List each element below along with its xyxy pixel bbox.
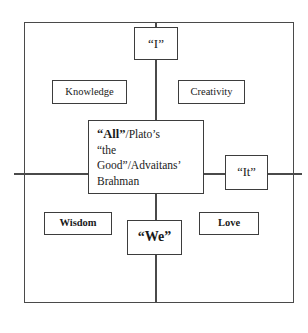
node-all-center: “All”/Plato’s “the Good”/Advaitans’ Brah… xyxy=(88,120,204,194)
node-creativity: Creativity xyxy=(178,80,245,104)
node-all-line-1: “All”/Plato’s xyxy=(97,126,203,143)
node-love: Love xyxy=(199,212,259,235)
node-love-label: Love xyxy=(218,217,240,229)
node-i-label: “I” xyxy=(148,36,164,51)
node-it-label: “It” xyxy=(237,165,256,180)
node-creativity-label: Creativity xyxy=(191,86,233,98)
diagram-canvas: “I” Knowledge Creativity “All”/Plato’s “… xyxy=(0,0,308,333)
node-we-label: “We” xyxy=(138,229,171,246)
node-all-line-1-rest: /Plato’s xyxy=(125,128,160,140)
node-all-line-4: Brahman xyxy=(97,174,203,189)
node-it: “It” xyxy=(225,155,268,190)
node-knowledge: Knowledge xyxy=(52,80,127,104)
node-knowledge-label: Knowledge xyxy=(65,86,113,98)
node-we: “We” xyxy=(127,220,182,255)
node-i: “I” xyxy=(134,27,178,60)
node-wisdom: Wisdom xyxy=(44,212,112,235)
node-wisdom-label: Wisdom xyxy=(59,217,96,229)
node-all-strong-text: “All” xyxy=(97,127,125,141)
node-all-line-3: Good”/Advaitans’ xyxy=(97,158,203,173)
node-all-line-2: “the xyxy=(97,143,203,158)
